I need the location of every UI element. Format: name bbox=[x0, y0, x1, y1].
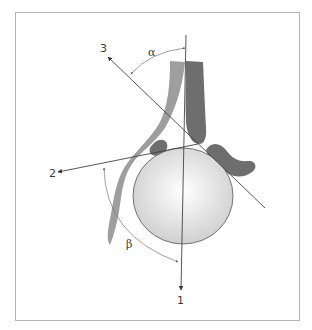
geometric-diagram: 1 2 3 α β bbox=[0, 0, 312, 330]
dark-column-shape bbox=[186, 61, 207, 144]
beta-label: β bbox=[126, 238, 132, 251]
axis-3-label: 3 bbox=[100, 42, 107, 55]
axis-2-label: 2 bbox=[49, 167, 56, 180]
alpha-label: α bbox=[148, 46, 156, 59]
axis-1-label: 1 bbox=[177, 294, 184, 307]
